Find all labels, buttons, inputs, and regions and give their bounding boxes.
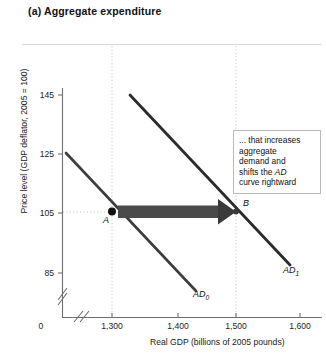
y-tick-label-105: 105 [28, 208, 54, 218]
ad1-label: AD1 [283, 265, 299, 277]
callout-line-2: aggregate [239, 146, 316, 157]
y-tick-label-85: 85 [28, 268, 54, 278]
y-tick-label-145: 145 [28, 90, 54, 100]
y-tick-label-125: 125 [28, 149, 54, 159]
x-tick-label-1400: 1,400 [156, 321, 200, 331]
ad1-label-sub: 1 [296, 270, 300, 277]
callout-line-4-pre: shifts the [239, 167, 275, 177]
point-b-marker [233, 209, 239, 215]
ad0-label-sub: 0 [206, 294, 210, 301]
callout-ad-emphasis: AD [275, 167, 287, 177]
callout-line-3: demand and [239, 156, 316, 167]
point-a-label: A [103, 215, 109, 225]
x-tick-label-1300: 1,300 [90, 321, 134, 331]
point-a-marker [108, 208, 116, 216]
ad0-label-text: AD [193, 289, 206, 299]
ad1-label-text: AD [283, 265, 296, 275]
x-axis-break-icon [74, 311, 89, 322]
x-tick-label-1600: 1,600 [278, 321, 322, 331]
callout-line-1: ... that increases [239, 135, 316, 146]
callout-box: ... that increases aggregate demand and … [233, 130, 321, 194]
aggregate-expenditure-figure: (a) Aggregate expenditure [0, 0, 326, 356]
ad0-label: AD0 [193, 289, 209, 301]
shift-arrow [118, 199, 236, 225]
y-axis-title: Price level (GDP deflator, 2005 = 100) [19, 51, 29, 231]
callout-line-5: curve rightward [239, 177, 316, 188]
point-b-label: B [243, 198, 249, 208]
x-tick-label-0: 0 [19, 321, 63, 331]
callout-line-4: shifts the AD [239, 167, 316, 178]
x-tick-label-1500: 1,500 [214, 321, 258, 331]
ad0-curve [66, 153, 196, 291]
x-axis-title: Real GDP (billions of 2005 pounds) [150, 337, 285, 347]
